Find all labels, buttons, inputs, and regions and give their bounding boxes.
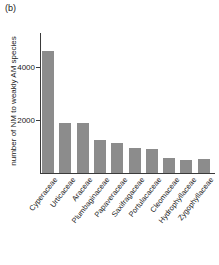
y-axis-tick-mark bbox=[36, 67, 40, 68]
y-axis-tick-mark bbox=[36, 120, 40, 121]
y-axis-line bbox=[40, 33, 41, 174]
y-axis-tick-label: 4000 bbox=[17, 63, 35, 72]
y-axis-title-container: number of NM to weakly AM species bbox=[6, 28, 20, 174]
panel-label: (b) bbox=[5, 3, 16, 13]
bar bbox=[129, 148, 141, 173]
bar bbox=[111, 143, 123, 173]
bar bbox=[180, 160, 192, 173]
x-axis-line bbox=[40, 173, 215, 174]
bar bbox=[94, 140, 106, 173]
bar bbox=[42, 51, 54, 173]
bar bbox=[59, 123, 71, 173]
figure-panel-b: (b) number of NM to weakly AM species 20… bbox=[0, 0, 219, 265]
bar bbox=[198, 159, 210, 173]
bar bbox=[163, 158, 175, 173]
y-axis-tick-label: 2000 bbox=[17, 116, 35, 125]
x-axis-tick-labels: CyperaceaeUrticaceaeAraceaePlumbaginacea… bbox=[40, 176, 219, 265]
bar bbox=[77, 123, 89, 173]
y-axis-title: number of NM to weakly AM species bbox=[9, 36, 18, 165]
bar bbox=[146, 149, 158, 173]
plot-area: 20004000 bbox=[40, 33, 215, 174]
